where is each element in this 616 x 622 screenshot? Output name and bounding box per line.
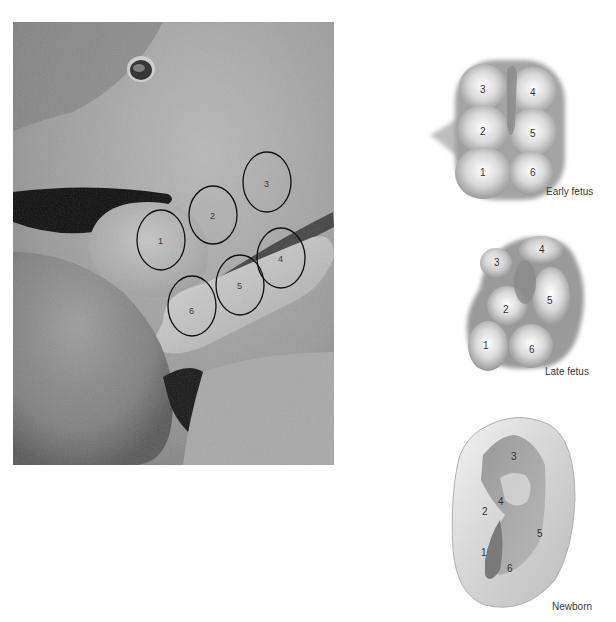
newborn-label-3: 3 bbox=[511, 451, 517, 462]
late-label-2: 2 bbox=[503, 304, 509, 315]
sem-micrograph: 1 2 3 4 5 6 bbox=[13, 22, 334, 465]
newborn-ear-illustration: 3 4 2 5 1 6 bbox=[445, 410, 590, 615]
late-label-4: 4 bbox=[539, 244, 545, 255]
photo-label-4: 4 bbox=[278, 254, 283, 264]
photo-label-6: 6 bbox=[189, 306, 194, 316]
newborn-label-6: 6 bbox=[507, 563, 513, 574]
early-label-3: 3 bbox=[480, 84, 486, 95]
micrograph-illustration: 1 2 3 4 5 6 bbox=[13, 22, 334, 465]
stage-late-fetus: 1 2 3 4 5 6 bbox=[455, 228, 605, 378]
late-label-3: 3 bbox=[494, 257, 500, 268]
caption-newborn: Newborn bbox=[552, 601, 592, 612]
newborn-label-5: 5 bbox=[537, 528, 543, 539]
late-label-5: 5 bbox=[547, 295, 553, 306]
photo-label-5: 5 bbox=[237, 281, 242, 291]
photo-label-3: 3 bbox=[264, 179, 269, 189]
newborn-label-2: 2 bbox=[482, 506, 488, 517]
stage-early-fetus: 3 2 1 4 5 6 bbox=[425, 55, 615, 205]
late-fetus-illustration: 1 2 3 4 5 6 bbox=[455, 228, 605, 378]
early-label-6: 6 bbox=[530, 167, 536, 178]
early-label-2: 2 bbox=[480, 126, 486, 137]
caption-early-fetus: Early fetus bbox=[546, 186, 593, 197]
early-label-4: 4 bbox=[530, 87, 536, 98]
photo-label-2: 2 bbox=[210, 211, 215, 221]
early-label-1: 1 bbox=[480, 167, 486, 178]
newborn-label-1: 1 bbox=[481, 547, 487, 558]
late-label-6: 6 bbox=[529, 344, 535, 355]
late-label-1: 1 bbox=[483, 340, 489, 351]
early-fetus-illustration: 3 2 1 4 5 6 bbox=[425, 55, 615, 205]
early-label-5: 5 bbox=[530, 128, 536, 139]
newborn-label-4: 4 bbox=[498, 496, 504, 507]
photo-label-1: 1 bbox=[158, 236, 163, 246]
caption-late-fetus: Late fetus bbox=[545, 366, 589, 377]
stage-newborn: 3 4 2 5 1 6 bbox=[445, 410, 590, 615]
